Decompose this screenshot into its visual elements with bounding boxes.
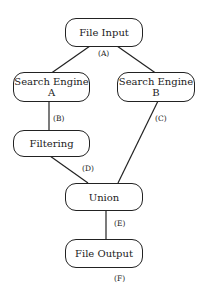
edge-label-a: (A) — [98, 49, 109, 58]
edge-label-b: (B) — [53, 114, 64, 123]
edge-label-e: (E) — [114, 219, 125, 228]
flowchart: File Input Search Engine A Search Engine… — [0, 0, 204, 298]
edge-search-b-to-union — [118, 101, 158, 183]
edge-label-f: (F) — [114, 274, 125, 283]
edge-label-d: (D) — [82, 164, 94, 173]
node-file-input: File Input — [65, 18, 143, 47]
node-filtering: Filtering — [13, 130, 90, 157]
node-search-engine-a: Search Engine A — [13, 72, 90, 102]
edge-input-to-search-a — [50, 46, 90, 74]
node-union: Union — [65, 183, 143, 211]
node-file-output: File Output — [65, 239, 143, 268]
node-search-engine-b: Search Engine B — [117, 72, 195, 102]
edge-label-c: (C) — [155, 114, 167, 123]
edge-input-to-search-b — [117, 46, 157, 74]
